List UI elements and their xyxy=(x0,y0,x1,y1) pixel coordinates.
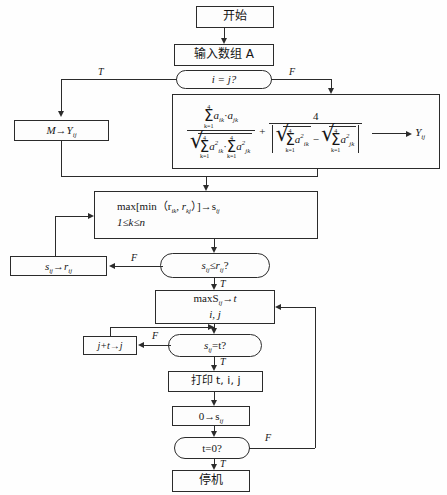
node-decision-i-equals-j-label: i = j? xyxy=(177,73,271,86)
sqrt-icon-1: √ 4 Σ k=1 a2ik· 4 Σ k=1 a2jk xyxy=(190,132,252,160)
node-assign-j-plus-t-label: j+t→j xyxy=(84,340,136,352)
edge-label-sr-true: T xyxy=(220,278,226,289)
sigma-icon: 4 Σ k=1 xyxy=(227,135,236,160)
node-stop-label: 停机 xyxy=(173,474,249,488)
node-print[interactable]: 打印 t, i, j xyxy=(168,371,263,392)
edge-label-st-false: F xyxy=(152,330,158,341)
arrow-left-icon xyxy=(109,263,115,269)
arrow-right-icon xyxy=(88,213,94,219)
node-correlation-formula[interactable]: 4 Σ k=1 aik·ajk √ 4 Σ k=1 a2ik· xyxy=(172,94,440,169)
node-max-s-label: maxSij→t i, j xyxy=(156,291,274,323)
edge-ij-false-vertical xyxy=(331,79,332,88)
edge-my-down xyxy=(61,141,62,176)
edge-label-sr-false: F xyxy=(131,252,137,263)
max-min-line-1: max[min（rik, rkj）]→sij xyxy=(117,200,220,212)
max-s-line-2: i, j xyxy=(209,308,221,320)
arrow-down-icon xyxy=(203,185,209,191)
arrow-right-icon xyxy=(208,324,214,330)
formula-left-numerator: 4 Σ k=1 aik·ajk xyxy=(187,104,255,131)
node-assign-m-to-y[interactable]: M→Yij xyxy=(14,120,109,141)
edge-jt-feedback-up xyxy=(110,327,111,337)
max-min-line-2: 1≤k≤n xyxy=(117,216,145,228)
node-max-s[interactable]: maxSij→t i, j xyxy=(155,290,275,324)
node-assign-s-to-r-label: sij→rij xyxy=(11,260,106,273)
formula-left-denominator: √ 4 Σ k=1 a2ik· 4 Σ k=1 a2jk xyxy=(187,131,255,160)
assign-m-sub: ij xyxy=(73,131,77,138)
assign-m-text: M→Y xyxy=(46,124,72,136)
edge-sr-feedback-across xyxy=(55,216,88,217)
edge-label-ij-false: F xyxy=(289,66,295,77)
edge-ij-true-horizontal xyxy=(61,79,177,80)
node-decision-s-le-r-label: sij≤rij? xyxy=(161,259,269,272)
formula-expression: 4 Σ k=1 aik·ajk √ 4 Σ k=1 a2ik· xyxy=(187,104,425,160)
node-assign-s-to-r[interactable]: sij→rij xyxy=(10,256,107,276)
edge-jt-feedback-across xyxy=(110,327,214,328)
arrow-left-icon xyxy=(138,342,144,348)
edge-join-to-maxmin xyxy=(206,176,207,185)
edge-t0-false-horizontal xyxy=(249,448,315,449)
edge-print-to-zero xyxy=(214,392,215,400)
arrow-down-icon xyxy=(211,400,217,406)
arrow-down-icon xyxy=(211,431,217,437)
arrow-down-icon xyxy=(211,464,217,470)
arrow-down-icon xyxy=(211,247,217,253)
node-max-min-label: max[min（rik, rkj）]→sij 1≤k≤n xyxy=(95,199,317,231)
formula-output-arrow: Yij xyxy=(362,126,425,139)
edge-maxmin-to-decision xyxy=(214,239,215,247)
sigma-icon: 4 Σ k=1 xyxy=(204,104,213,129)
node-decision-i-equals-j[interactable]: i = j? xyxy=(176,70,272,89)
edge-sr-feedback-up xyxy=(55,216,56,256)
edge-st-false-horizontal xyxy=(144,345,171,346)
edge-st-true-vertical xyxy=(214,357,215,365)
node-input-array[interactable]: 输入数组 A xyxy=(174,44,274,66)
node-decision-s-equals-t[interactable]: sij=t? xyxy=(168,334,262,357)
node-assign-m-to-y-label: M→Yij xyxy=(15,124,108,137)
edge-sr-false-horizontal xyxy=(115,266,163,267)
formula-left-fraction: 4 Σ k=1 aik·ajk √ 4 Σ k=1 a2ik· xyxy=(187,104,255,160)
edge-formula-down xyxy=(317,169,318,176)
arrow-down-icon xyxy=(221,38,227,44)
node-decision-s-le-r[interactable]: sij≤rij? xyxy=(160,253,270,278)
sqrt-icon-2: √ 4 Σ k=1 a2ik xyxy=(275,125,310,153)
formula-right-denominator: √ 4 Σ k=1 a2ik − √ xyxy=(269,124,362,153)
node-zero-to-s-label: 0→sij xyxy=(173,410,249,423)
edge-ij-false-horizontal xyxy=(271,79,331,80)
edge-start-to-input xyxy=(224,28,225,38)
edge-label-ij-true: T xyxy=(98,66,104,77)
node-decision-t-equals-zero[interactable]: t=0? xyxy=(174,437,250,459)
flowchart-canvas: 开始 输入数组 A i = j? M→Yij 4 Σ k=1 aik·ajk xyxy=(0,0,447,495)
arrow-down-icon xyxy=(211,365,217,371)
edge-formula-across xyxy=(206,176,318,177)
edge-my-across xyxy=(61,176,206,177)
node-decision-t-equals-zero-label: t=0? xyxy=(175,442,249,455)
node-assign-j-plus-t[interactable]: j+t→j xyxy=(83,336,137,355)
plus-sign: + xyxy=(255,125,269,138)
node-start[interactable]: 开始 xyxy=(196,6,274,28)
node-max-min[interactable]: max[min（rik, rkj）]→sij 1≤k≤n xyxy=(94,191,318,239)
formula-right-fraction: 4 √ 4 Σ k=1 a2ik − xyxy=(269,110,362,153)
node-decision-s-equals-t-label: sij=t? xyxy=(169,339,261,352)
arrow-left-icon xyxy=(275,304,281,310)
edge-label-t0-false: F xyxy=(265,432,271,443)
arrow-down-icon xyxy=(328,88,334,94)
arrow-down-icon xyxy=(211,284,217,290)
edge-t0-false-vertical xyxy=(315,307,316,448)
sigma-icon: 4 Σ k=1 xyxy=(200,135,209,160)
edge-label-st-true: T xyxy=(220,356,226,367)
sigma-icon: 4 Σ k=1 xyxy=(331,128,340,153)
edge-t0-false-return xyxy=(281,307,315,308)
arrow-down-icon xyxy=(58,111,64,117)
node-start-label: 开始 xyxy=(197,10,273,24)
sqrt-icon-3: √ 4 Σ k=1 a2jk xyxy=(321,125,356,153)
edge-ij-true-vertical xyxy=(61,79,62,111)
node-print-label: 打印 t, i, j xyxy=(169,375,262,388)
sigma-icon: 4 Σ k=1 xyxy=(285,128,294,153)
minus-sign: − xyxy=(311,133,321,145)
node-input-array-label: 输入数组 A xyxy=(175,48,273,62)
node-stop[interactable]: 停机 xyxy=(172,470,250,492)
abs-bars: √ 4 Σ k=1 a2ik − √ xyxy=(272,125,359,153)
edge-label-t0-true: T xyxy=(220,458,226,469)
node-zero-to-s[interactable]: 0→sij xyxy=(172,406,250,426)
max-s-line-1: maxSij→t xyxy=(194,292,237,304)
